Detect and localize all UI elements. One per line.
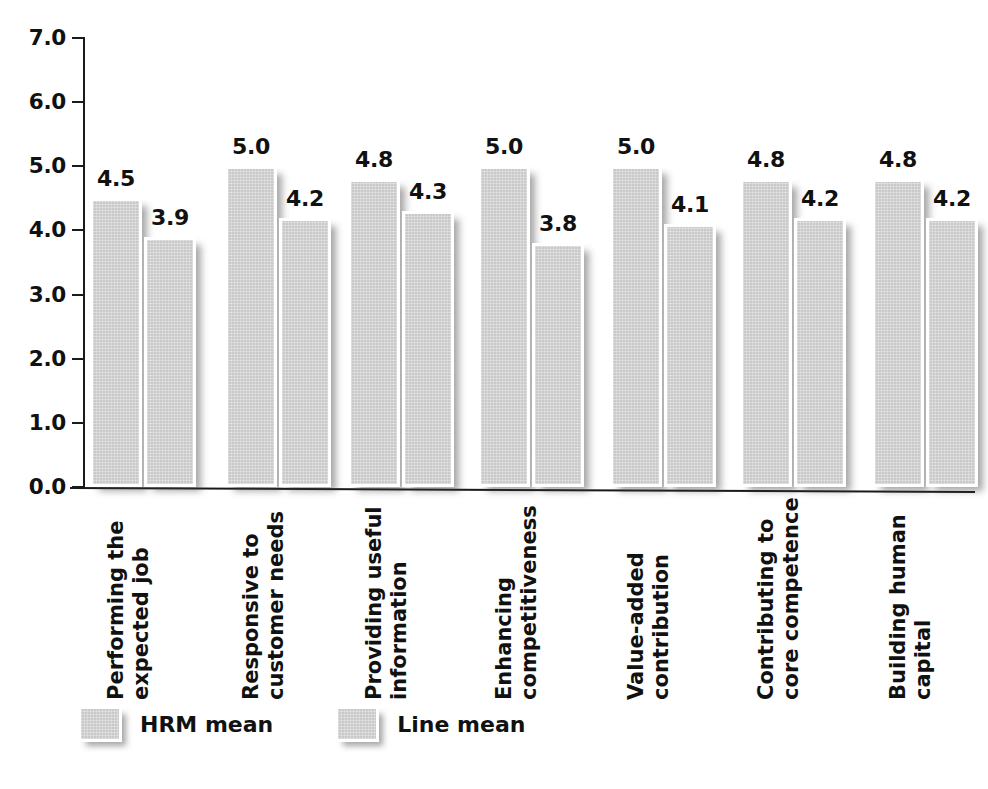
bar-value-label: 4.1 (654, 194, 726, 216)
category-label-line: competitiveness (517, 505, 542, 700)
category-label-line: Building human (886, 514, 911, 700)
category-label-line: Value-added (624, 552, 649, 700)
y-axis-tick-label: 0.0 (8, 476, 66, 498)
bar-fill (797, 221, 843, 484)
category-label-line: Contributing to (754, 519, 779, 700)
bar (794, 218, 846, 487)
bar (740, 179, 792, 487)
category-label-line: core competence (779, 497, 804, 700)
x-axis-category-label: Enhancingcompetitiveness (492, 500, 538, 700)
bar-fill (93, 201, 139, 484)
bar-fill (282, 221, 328, 484)
bar-value-label: 4.2 (784, 188, 856, 210)
chart-legend: HRM meanLine mean (78, 706, 525, 742)
bar-value-label: 4.2 (269, 188, 341, 210)
legend-item: HRM mean (78, 706, 273, 742)
bar-value-label: 4.8 (862, 149, 934, 171)
category-label-line: capital (911, 620, 936, 700)
y-axis-tick-label: 7.0 (8, 27, 66, 49)
bar-fill (228, 169, 274, 484)
bar-value-label: 3.9 (134, 207, 206, 229)
y-axis-tick-label: 4.0 (8, 219, 66, 241)
plot-area: 4.53.95.04.24.84.35.03.85.04.14.84.24.84… (83, 38, 963, 487)
x-axis-category-label: Building humancapital (886, 500, 932, 700)
bar (348, 179, 400, 487)
bar (402, 211, 454, 487)
y-axis-tick-label: 5.0 (8, 155, 66, 177)
bar-fill (481, 169, 527, 484)
category-label-line: Performing the (104, 520, 129, 700)
bar-value-label: 4.5 (80, 168, 152, 190)
bar (532, 243, 584, 487)
bar (144, 237, 196, 487)
bar (279, 218, 331, 487)
category-label-line: contribution (649, 554, 674, 700)
category-label-line: Enhancing (492, 577, 517, 700)
bar-fill (667, 227, 713, 484)
bar-value-label: 4.8 (338, 149, 410, 171)
category-label-line: expected job (129, 547, 154, 700)
legend-swatch-icon (335, 706, 379, 742)
bar-value-label: 5.0 (468, 136, 540, 158)
category-label-line: Providing useful (362, 506, 387, 700)
bar-fill (613, 169, 659, 484)
x-axis-category-label: Performing theexpected job (104, 500, 150, 700)
x-axis-category-label: Providing usefulinformation (362, 500, 408, 700)
bar-value-label: 4.3 (392, 181, 464, 203)
x-axis-category-label: Contributing tocore competence (754, 500, 800, 700)
legend-label: HRM mean (140, 712, 273, 737)
bar-fill (147, 240, 193, 484)
bar (90, 198, 142, 487)
bar-value-label: 5.0 (215, 136, 287, 158)
bar-fill (405, 214, 451, 484)
bar-fill (875, 182, 921, 484)
legend-item: Line mean (335, 706, 525, 742)
legend-label: Line mean (397, 712, 525, 737)
category-label-line: Responsive to (239, 533, 264, 700)
category-label-line: customer needs (264, 511, 289, 700)
bar (872, 179, 924, 487)
y-axis-tick-label: 3.0 (8, 284, 66, 306)
x-axis-line (70, 487, 975, 493)
bar-fill (535, 246, 581, 484)
bar-fill (351, 182, 397, 484)
bar-value-label: 4.2 (916, 188, 988, 210)
y-axis-tick-label: 6.0 (8, 91, 66, 113)
y-axis-tick-label: 1.0 (8, 412, 66, 434)
bar (664, 224, 716, 487)
bar-value-label: 4.8 (730, 149, 802, 171)
y-axis-tick-label: 2.0 (8, 348, 66, 370)
bar (225, 166, 277, 487)
bar-fill (743, 182, 789, 484)
bar-fill (929, 221, 975, 484)
bar (926, 218, 978, 487)
category-label-line: information (387, 561, 412, 700)
bar-value-label: 5.0 (600, 136, 672, 158)
x-axis-category-label: Value-addedcontribution (624, 500, 670, 700)
x-axis-category-label: Responsive tocustomer needs (239, 500, 285, 700)
bar-value-label: 3.8 (522, 213, 594, 235)
legend-swatch-icon (78, 706, 122, 742)
